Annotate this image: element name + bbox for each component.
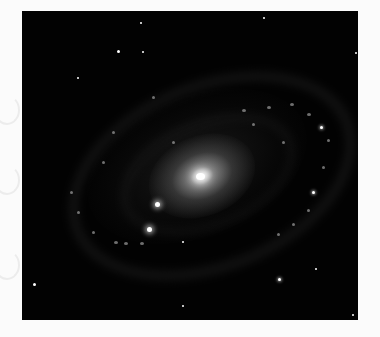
star-cluster [172,141,175,144]
star-cluster [307,209,310,212]
star [352,314,354,316]
star [147,227,152,232]
star-cluster [322,166,325,169]
star-cluster [242,109,246,112]
star [320,126,323,129]
star [77,77,79,79]
star-cluster [307,113,311,116]
star [182,305,184,307]
star-cluster [282,141,285,144]
star-cluster [267,106,271,109]
star [142,51,144,53]
galaxy-image [22,11,358,320]
background-artifact [0,95,20,125]
star [33,283,36,286]
star [315,268,317,270]
star [312,191,315,194]
star [182,241,184,243]
star-cluster [114,241,118,244]
star [278,278,281,281]
galaxy-core [196,173,205,180]
star-cluster [277,233,280,236]
star [140,22,142,24]
star-cluster [252,123,255,126]
star-cluster [124,242,128,245]
star-cluster [290,103,294,106]
background-artifact [0,250,20,280]
star [117,50,120,53]
star [355,52,357,54]
star [263,17,265,19]
star-cluster [292,223,295,226]
star-cluster [152,96,155,99]
star-cluster [92,231,95,234]
star-cluster [327,139,330,142]
background-artifact [0,165,20,195]
star [155,202,160,207]
star-cluster [112,131,115,134]
star-cluster [102,161,105,164]
star-cluster [77,211,80,214]
star-cluster [70,191,73,194]
star-cluster [140,242,144,245]
